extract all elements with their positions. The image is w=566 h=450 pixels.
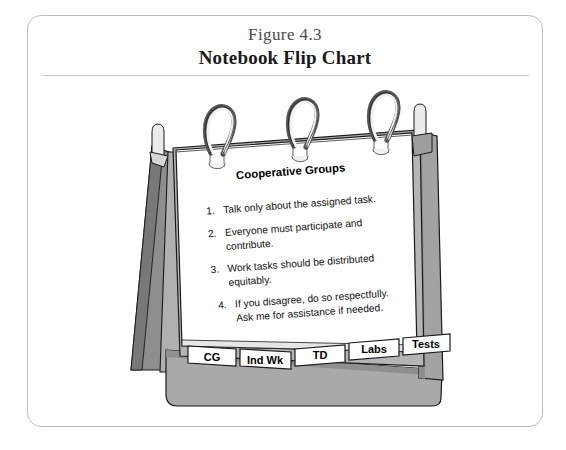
rule-number-2: 2. (208, 228, 217, 240)
tab-label-tests: Tests (412, 338, 440, 350)
tab-ind-wk[interactable]: Ind Wk (240, 349, 291, 369)
binder-post-right (412, 104, 432, 156)
tab-labs[interactable]: Labs (349, 339, 399, 360)
rule-number-3: 3. (210, 264, 219, 276)
tab-label-ind-wk: Ind Wk (247, 354, 284, 366)
tab-label-labs: Labs (361, 343, 387, 355)
rule-number-1: 1. (206, 205, 215, 217)
tab-tests[interactable]: Tests (403, 334, 450, 355)
tab-td[interactable]: TD (295, 345, 345, 366)
tab-label-td: TD (313, 349, 328, 361)
notebook-flip-chart-illustration: Cooperative Groups 1. Talk only about th… (0, 0, 566, 450)
rule-number-4: 4. (218, 299, 227, 311)
tab-cg[interactable]: CG (188, 346, 236, 366)
binder-post-left (150, 124, 168, 167)
tab-label-cg: CG (204, 351, 221, 363)
